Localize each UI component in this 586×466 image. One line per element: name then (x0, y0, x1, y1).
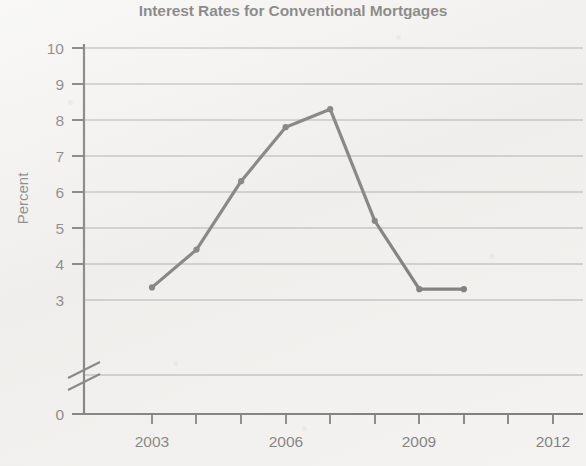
data-point-marker (416, 286, 422, 292)
x-tick-label: 2003 (135, 433, 169, 450)
data-point-marker (283, 124, 289, 130)
x-tick-label: 2006 (269, 433, 303, 450)
data-point-marker (193, 247, 199, 253)
y-tick-label: 10 (47, 40, 65, 57)
y-tick-labels: 10 9 8 7 6 5 4 3 0 (47, 40, 65, 423)
y-tick-label: 9 (55, 76, 64, 93)
y-tick-label: 8 (55, 112, 64, 129)
x-axis-ticks (152, 414, 553, 424)
y-tick-label: 5 (55, 220, 64, 237)
y-tick-label: 3 (55, 292, 64, 309)
data-point-marker (372, 218, 378, 224)
data-point-marker (327, 106, 333, 112)
data-line-series (152, 109, 464, 289)
data-point-marker (238, 178, 244, 184)
x-tick-labels: 2003 2006 2009 2012 (135, 433, 570, 450)
line-chart-plot: 10 9 8 7 6 5 4 3 0 2003 2006 2009 2012 (0, 0, 586, 466)
x-tick-label: 2009 (402, 433, 436, 450)
y-axis-ticks (72, 48, 84, 414)
data-point-marker (461, 286, 467, 292)
y-tick-label: 0 (55, 406, 64, 423)
gridlines (84, 48, 583, 375)
y-tick-label: 7 (55, 148, 64, 165)
y-tick-label: 6 (55, 184, 64, 201)
x-tick-label: 2012 (536, 433, 570, 450)
y-tick-label: 4 (55, 256, 64, 273)
data-point-marker (149, 284, 155, 290)
